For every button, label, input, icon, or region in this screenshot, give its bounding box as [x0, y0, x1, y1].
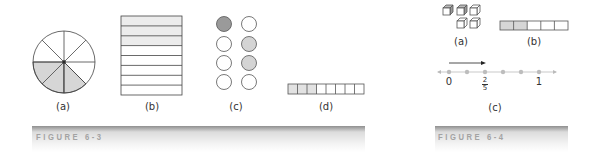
panel-label-b: (b) [145, 102, 159, 112]
fraction-numerator: 2 [483, 76, 487, 84]
number-line-diagram [437, 61, 557, 74]
number-line-fraction: 2 5 [482, 77, 488, 92]
panel-label-c: (c) [229, 102, 242, 112]
circle-set-diagram [217, 17, 257, 90]
number-line-start: 0 [446, 77, 452, 87]
rectangle-rows-diagram [121, 16, 182, 95]
panel-label-a: (a) [56, 102, 70, 112]
panel-label-b: (b) [527, 37, 541, 47]
panel-label-d: (d) [319, 102, 333, 112]
panel-label-c: (c) [488, 103, 501, 113]
strip-5-diagram [500, 21, 568, 30]
cubes-diagram [443, 5, 480, 28]
figure-caption-6-3: FIGURE 6-3 [36, 133, 104, 142]
figure-caption-6-4: FIGURE 6-4 [438, 133, 506, 142]
panel-label-a: (a) [454, 37, 468, 47]
number-line-end: 1 [536, 77, 542, 87]
pie-fraction-diagram [33, 31, 95, 93]
fraction-denominator: 5 [483, 84, 487, 92]
strip-8-diagram [288, 84, 364, 94]
